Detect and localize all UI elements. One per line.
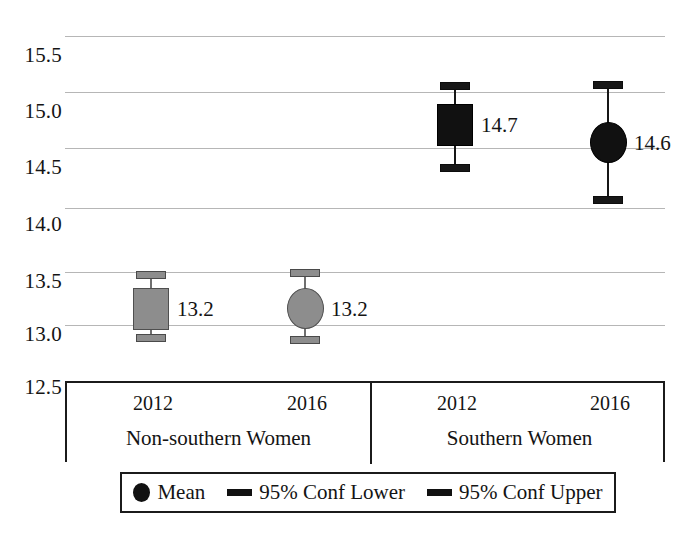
group-label-southern-women: Southern Women xyxy=(372,423,667,453)
y-axis-tick-label: 12.5 xyxy=(4,377,62,398)
y-axis-tick-label: 13.0 xyxy=(4,324,62,345)
gridline-14-0 xyxy=(65,208,665,209)
legend-label-mean: Mean xyxy=(157,482,205,503)
legend-label-conf-lower: 95% Conf Lower xyxy=(259,482,405,503)
mean-value-label: 13.2 xyxy=(177,299,214,320)
legend-item-conf-lower[interactable]: 95% Conf Lower xyxy=(227,482,405,503)
legend: Mean 95% Conf Lower 95% Conf Upper xyxy=(120,472,616,513)
year-label-row: 2012 2016 2012 2016 xyxy=(67,389,667,417)
y-axis-tick-label: 13.5 xyxy=(4,271,62,292)
legend-item-mean[interactable]: Mean xyxy=(133,482,205,503)
conf-upper-cap xyxy=(136,271,166,279)
mean-circle-icon xyxy=(133,483,150,502)
confidence-interval-chart: 15.5 15.0 14.5 14.0 13.5 13.0 12.5 13.2 xyxy=(0,0,688,533)
conf-upper-cap xyxy=(593,81,623,89)
y-axis-tick-label: 15.5 xyxy=(4,45,62,66)
mean-value-label: 14.6 xyxy=(634,133,671,154)
year-label-southern-2016: 2016 xyxy=(550,389,670,417)
conf-lower-cap xyxy=(440,164,470,172)
y-axis-tick-label: 14.0 xyxy=(4,214,62,235)
conf-lower-cap xyxy=(136,334,166,342)
y-axis-tick-label: 15.0 xyxy=(4,101,62,122)
mean-value-label: 14.7 xyxy=(481,115,518,136)
gridline-15-5 xyxy=(65,36,665,37)
year-label-nonsouthern-2016: 2016 xyxy=(247,389,367,417)
gridline-15-0 xyxy=(65,92,665,93)
group-label-row: Non-southern Women Southern Women xyxy=(67,423,667,453)
legend-item-conf-upper[interactable]: 95% Conf Upper xyxy=(427,482,602,503)
conf-upper-cap xyxy=(440,82,470,90)
mean-marker-square xyxy=(133,288,169,330)
year-label-nonsouthern-2012: 2012 xyxy=(93,389,213,417)
category-axis: 2012 2016 2012 2016 Non-southern Women S… xyxy=(65,381,665,462)
plot-area: 13.2 13.2 14.7 14.6 xyxy=(65,20,665,382)
mean-value-label: 13.2 xyxy=(331,299,368,320)
gridline-14-5 xyxy=(65,148,665,149)
group-label-non-southern-women: Non-southern Women xyxy=(67,423,370,453)
conf-lower-bar-icon xyxy=(227,489,252,496)
mean-marker-circle xyxy=(590,122,627,163)
y-axis-tick-labels: 15.5 15.0 14.5 14.0 13.5 13.0 12.5 xyxy=(0,20,62,382)
legend-label-conf-upper: 95% Conf Upper xyxy=(459,482,602,503)
conf-upper-bar-icon xyxy=(427,489,452,496)
mean-marker-square xyxy=(437,104,473,146)
conf-lower-cap xyxy=(290,336,320,344)
conf-upper-cap xyxy=(290,269,320,277)
mean-marker-circle xyxy=(287,288,324,329)
year-label-southern-2012: 2012 xyxy=(397,389,517,417)
conf-lower-cap xyxy=(593,196,623,204)
y-axis-tick-label: 14.5 xyxy=(4,157,62,178)
